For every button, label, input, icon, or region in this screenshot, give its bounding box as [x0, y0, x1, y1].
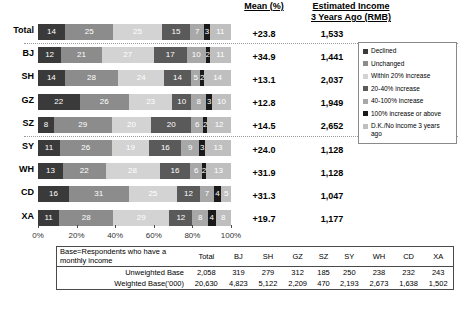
- stacked-bar[interactable]: 16312512745: [38, 186, 231, 202]
- base-table-cell: 1,502: [423, 278, 453, 289]
- bar-segment[interactable]: 14: [38, 24, 65, 40]
- bar-segment[interactable]: 14: [38, 70, 65, 86]
- chart-legend: DeclinedUnchangedWithin 20% increase20-4…: [358, 42, 457, 144]
- bar-segment[interactable]: 27: [102, 47, 154, 63]
- bar-segment[interactable]: 7: [190, 24, 204, 40]
- bar-segment[interactable]: 10: [212, 94, 231, 110]
- stacked-bar[interactable]: 142824145214: [38, 70, 231, 86]
- bar-segment[interactable]: 24: [118, 70, 164, 86]
- bar-segment[interactable]: 20: [151, 117, 191, 133]
- stacked-bar[interactable]: 82920206212: [38, 117, 231, 133]
- legend-swatch-icon: [363, 86, 368, 91]
- bar-segment[interactable]: 21: [61, 47, 102, 63]
- bar-segment[interactable]: 12: [177, 186, 200, 202]
- bar-segment[interactable]: 26: [80, 94, 129, 110]
- bar-segment[interactable]: 20: [112, 117, 152, 133]
- chart-row-label: SH: [0, 71, 34, 81]
- bar-segment[interactable]: 8: [191, 94, 206, 110]
- legend-item[interactable]: 20-40% increase: [363, 85, 452, 93]
- bar-segment[interactable]: 6: [190, 163, 202, 179]
- bar-segment[interactable]: 12: [38, 47, 61, 63]
- bar-segment[interactable]: 25: [129, 186, 177, 202]
- x-axis: [38, 225, 231, 229]
- bar-segment[interactable]: 29: [113, 210, 169, 226]
- bar-segment[interactable]: 29: [54, 117, 112, 133]
- bar-segment[interactable]: 22: [38, 94, 80, 110]
- bar-segment[interactable]: 16: [38, 186, 69, 202]
- estimated-income-value: 1,177: [296, 208, 368, 231]
- bar-segment[interactable]: 25: [113, 24, 161, 40]
- mean-value: +31.9: [236, 161, 292, 184]
- bar-segment[interactable]: 31: [69, 186, 129, 202]
- chart-row: BJ1221271710211: [0, 45, 236, 68]
- bar-segment[interactable]: 26: [60, 140, 112, 156]
- legend-item[interactable]: 100% increase or above: [363, 110, 452, 118]
- chart-row-label: GZ: [0, 95, 34, 105]
- legend-item[interactable]: 40-100% increase: [363, 97, 452, 105]
- base-table-header-row: Base=Respondents who have amonthly incom…: [57, 247, 453, 266]
- stacked-bar[interactable]: 132228166213: [38, 163, 231, 179]
- bar-segment[interactable]: 13: [205, 140, 231, 156]
- bar-segment[interactable]: 17: [154, 47, 187, 63]
- bar-segment[interactable]: 8: [38, 117, 54, 133]
- bar-segment[interactable]: 5: [221, 186, 231, 202]
- bar-segment[interactable]: 9: [181, 140, 199, 156]
- bar-segment[interactable]: 28: [59, 210, 113, 226]
- bar-segment[interactable]: 13: [206, 163, 231, 179]
- stacked-bar[interactable]: 112619169313: [38, 140, 231, 156]
- chart-row: SZ82920206212: [0, 115, 236, 138]
- x-axis-tick-label: 100%: [216, 231, 246, 240]
- bar-segment[interactable]: 10: [187, 47, 206, 63]
- base-table-column-header: SH: [253, 247, 283, 266]
- base-table-column-header: WH: [364, 247, 394, 266]
- bar-segment[interactable]: 22: [63, 163, 105, 179]
- bar-segment[interactable]: 4: [214, 186, 222, 202]
- base-table-cell: 2,209: [283, 278, 313, 289]
- bar-segment[interactable]: 11: [210, 24, 231, 40]
- bar-segment[interactable]: 12: [207, 117, 231, 133]
- x-axis-tick: [192, 225, 193, 228]
- bar-segment[interactable]: 6: [191, 117, 203, 133]
- bar-segment[interactable]: 11: [210, 47, 231, 63]
- bar-segment[interactable]: 14: [164, 70, 191, 86]
- stacked-bar[interactable]: 222623108310: [38, 94, 231, 110]
- x-axis-tick-label: 60%: [139, 231, 169, 240]
- base-table-cell: 470: [312, 278, 334, 289]
- bar-segment[interactable]: 28: [65, 70, 119, 86]
- stacked-bar[interactable]: 11282912848: [38, 210, 231, 226]
- bar-segment[interactable]: 28: [106, 163, 160, 179]
- legend-item[interactable]: Unchanged: [363, 60, 452, 68]
- x-axis-tick: [77, 225, 78, 228]
- bar-segment[interactable]: 16: [149, 140, 181, 156]
- bar-segment[interactable]: 8: [192, 210, 207, 226]
- estimated-income-column-header: Estimated Income 3 Years Ago (RMB): [296, 1, 406, 23]
- chart-row-label: XA: [0, 211, 34, 221]
- stacked-bar[interactable]: 1221271710211: [38, 47, 231, 63]
- bar-segment[interactable]: 15: [162, 24, 191, 40]
- bar-segment[interactable]: 12: [169, 210, 192, 226]
- bar-segment[interactable]: 19: [112, 140, 150, 156]
- bar-segment[interactable]: 4: [208, 210, 216, 226]
- x-axis-tick-label: 0%: [23, 231, 53, 240]
- legend-swatch-icon: [363, 111, 368, 116]
- bar-segment[interactable]: 10: [172, 94, 191, 110]
- bar-segment[interactable]: 16: [160, 163, 191, 179]
- bar-segment[interactable]: 23: [129, 94, 173, 110]
- estimated-income-value: 1,128: [296, 161, 368, 184]
- bar-segment[interactable]: 11: [38, 140, 60, 156]
- bar-segment[interactable]: 11: [38, 210, 59, 226]
- bar-segment[interactable]: 14: [204, 70, 231, 86]
- legend-item[interactable]: Within 20% increase: [363, 72, 452, 80]
- chart-row-label: CD: [0, 187, 34, 197]
- base-definition-line2: monthly income: [60, 257, 186, 266]
- bar-segment[interactable]: 13: [38, 163, 63, 179]
- bar-segment[interactable]: 8: [216, 210, 231, 226]
- legend-item[interactable]: Declined: [363, 47, 452, 55]
- bar-segment[interactable]: 5: [191, 70, 201, 86]
- legend-item[interactable]: D.K./No income 3 years ago: [363, 122, 452, 138]
- stacked-bar[interactable]: 142525157311: [38, 24, 231, 40]
- bar-segment[interactable]: 7: [200, 186, 214, 202]
- mean-column-header-text: Mean (%): [244, 1, 284, 11]
- base-table-cell: 238: [364, 267, 394, 279]
- bar-segment[interactable]: 25: [65, 24, 113, 40]
